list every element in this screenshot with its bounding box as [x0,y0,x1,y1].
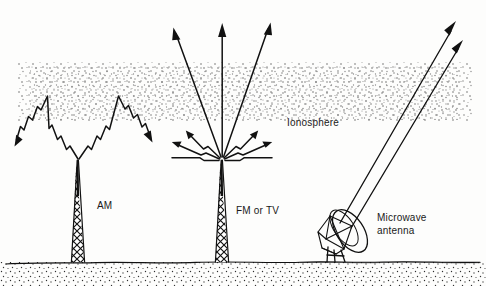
microwave-beams [340,31,458,228]
am-label: AM [97,200,112,211]
am-skywave-arrowheads [15,130,153,146]
microwave-antenna-label-line2: antenna [377,225,415,236]
diagram-canvas: Ionosphere AM FM or TV Microwave antenna [0,0,486,286]
fm-ray-horizontal-left [172,158,219,161]
fm-or-tv-label: FM or TV [236,205,279,216]
fm-arrowhead-shallow-left [172,141,182,147]
am-arrowhead-left [15,135,23,147]
fm-arrowhead-shallow-right [262,141,272,147]
fm-arrowhead-vertical [218,23,226,37]
ground-stipple [0,262,486,286]
am-tower [71,160,84,262]
dish-truss [318,216,352,254]
ionosphere-label: Ionosphere [287,117,339,128]
microwave-arrowhead-lower [452,40,463,53]
fm-ray-horizontal-right [225,158,272,161]
ground-layer [0,262,486,286]
fm-tower [215,160,228,262]
fm-arrowhead-steep-left [172,28,180,41]
radio-propagation-diagram: Ionosphere AM FM or TV Microwave antenna [0,0,486,286]
fm-arrowhead-steep-right [264,23,272,36]
dish-inner-rim [324,205,364,250]
microwave-beam-upper [340,31,451,223]
am-arrowhead-right [144,130,153,142]
microwave-arrowhead-upper [444,21,456,35]
microwave-antenna-label-line1: Microwave [377,212,427,223]
